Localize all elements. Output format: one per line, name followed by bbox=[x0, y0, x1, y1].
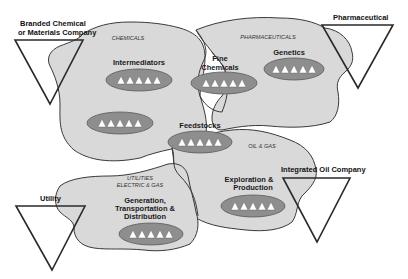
industry-value-chain-diagram: CHEMICALS PHARMACEUTICALS OIL & GAS UTIL… bbox=[0, 0, 408, 279]
feedstocks-label: Feedstocks bbox=[179, 121, 220, 130]
exploration-capability-pill bbox=[221, 195, 285, 217]
utility-company-label: Utility bbox=[40, 194, 62, 203]
genetics-label: Genetics bbox=[273, 48, 305, 57]
fine-chemicals-label-line2: Chemicals bbox=[201, 63, 239, 72]
generation-capability-pill bbox=[119, 223, 183, 245]
fine-chemicals-label-line1: Fine bbox=[212, 54, 227, 63]
branded-company-label-line1: Branded Chemical bbox=[20, 19, 86, 28]
pharmaceuticals-region-label: PHARMACEUTICALS bbox=[240, 34, 296, 40]
exploration-label-line2: Production bbox=[233, 183, 273, 192]
intermediators-capability-pill bbox=[106, 69, 172, 91]
genetics-capability-pill bbox=[264, 58, 324, 80]
chemicals-region-label: CHEMICALS bbox=[112, 35, 145, 41]
utilities-region-label-line2: ELECTRIC & GAS bbox=[117, 182, 164, 188]
oil-gas-region-label: OIL & GAS bbox=[248, 143, 276, 149]
generation-label-line3: Distribution bbox=[124, 212, 166, 221]
feedstocks-capability-pill bbox=[168, 131, 232, 153]
fine-chemicals-capability-pill bbox=[191, 72, 257, 94]
utilities-region-label-line1: UTILITIES bbox=[127, 175, 153, 181]
intermediators-label: Intermediators bbox=[113, 58, 165, 67]
pharmaceutical-company-label: Pharmaceutical bbox=[333, 13, 388, 22]
branded-company-label-line2: or Materials Company bbox=[18, 28, 97, 37]
integrated-oil-company-label: Integrated Oil Company bbox=[281, 165, 366, 174]
chemicals-secondary-capability-pill bbox=[87, 112, 153, 134]
